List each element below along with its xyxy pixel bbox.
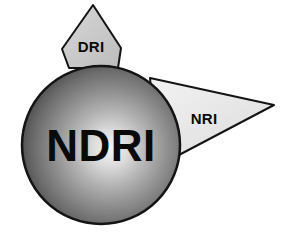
ndri-logo-graphic: DRI NRI NDRI xyxy=(0,0,293,239)
ndri-sphere-label: NDRI xyxy=(46,121,156,170)
nri-cone-label: NRI xyxy=(191,110,218,127)
ndri-sphere-group[interactable]: NDRI xyxy=(22,66,180,224)
dri-cone-label: DRI xyxy=(78,38,105,55)
dri-cone-group[interactable]: DRI xyxy=(62,5,121,68)
dri-cone-shape[interactable] xyxy=(62,5,121,68)
logo-canvas: DRI NRI NDRI xyxy=(0,0,293,239)
